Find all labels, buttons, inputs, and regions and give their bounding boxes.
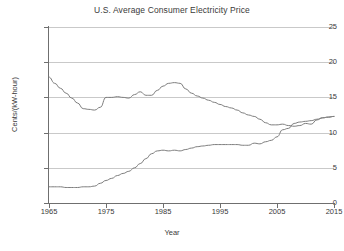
x-axis-cap-right [334, 203, 335, 208]
electricity-price-chart: U.S. Average Consumer Electricity Price … [0, 0, 344, 251]
x-axis-title: Year [0, 228, 344, 237]
series-line-inflation-adjusted [49, 77, 334, 126]
x-axis-cap-left [49, 203, 50, 208]
x-tick-label-1975: 1975 [86, 207, 126, 216]
x-axis-line [48, 203, 335, 204]
x-tick-label-2005: 2005 [257, 207, 297, 216]
chart-title: U.S. Average Consumer Electricity Price [0, 5, 344, 15]
x-tick-label-1985: 1985 [143, 207, 183, 216]
x-tick-label-1995: 1995 [200, 207, 240, 216]
x-tick-label-2015: 2015 [314, 207, 344, 216]
y-axis-title: Cents/(kW-hour) [10, 45, 19, 165]
series-lines [49, 27, 334, 203]
series-line-nominal [49, 116, 334, 187]
x-tick-label-1965: 1965 [29, 207, 69, 216]
